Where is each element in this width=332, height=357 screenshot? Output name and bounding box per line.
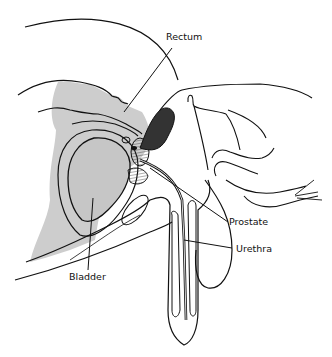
penis-outline: [150, 180, 210, 345]
prostate-lower: [128, 168, 148, 184]
urethra-leader: [184, 240, 232, 248]
urethra-label: Urethra: [236, 244, 272, 254]
bladder-label: Bladder: [69, 272, 106, 282]
rectum-leader: [124, 48, 172, 112]
prostate-label: Prostate: [229, 217, 268, 227]
hand-knuckle: [188, 95, 226, 114]
anatomy-diagram: Rectum Prostate Urethra Bladder: [0, 0, 332, 357]
hand-outline: [160, 84, 312, 110]
rectum-label: Rectum: [166, 32, 202, 42]
prostate-leader: [150, 168, 228, 222]
corpus-right: [188, 201, 196, 316]
urethra-tube: [140, 160, 186, 320]
diagram-artwork: [0, 0, 332, 357]
scrotum: [196, 180, 233, 288]
corpus-left: [172, 211, 180, 317]
bladder-inner: [68, 138, 130, 221]
